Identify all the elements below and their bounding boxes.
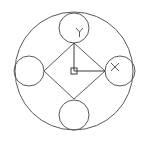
small-circle-right[interactable]: [105, 56, 135, 86]
small-circle-left[interactable]: [14, 56, 44, 86]
drawing-svg: Y X: [0, 0, 142, 141]
x-axis-glyph-icon: [111, 63, 119, 71]
small-circle-bottom[interactable]: [59, 100, 89, 130]
y-axis-glyph-icon: [76, 28, 83, 37]
ucs-icon: Y X: [0, 0, 119, 74]
small-circle-top[interactable]: [59, 13, 89, 43]
cad-drawing-canvas[interactable]: Y X: [0, 0, 142, 141]
